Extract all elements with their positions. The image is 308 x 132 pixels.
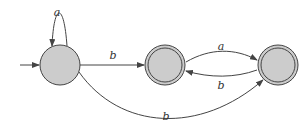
automaton-diagram: a b a b b	[0, 0, 308, 132]
state-q2	[258, 45, 298, 85]
edge-label-q2-q1: b	[217, 79, 224, 92]
edge-label-q1-q2: a	[218, 40, 225, 53]
edge-label-q0-q0: a	[54, 6, 61, 19]
edge-q2-q1	[186, 70, 257, 76]
state-q0	[40, 45, 80, 85]
edge-label-q0-q2: b	[162, 110, 169, 123]
edge-label-q0-q1: b	[109, 49, 116, 62]
state-q1	[145, 45, 185, 85]
